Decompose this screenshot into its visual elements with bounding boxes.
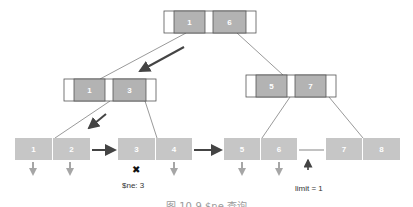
leaf-key-4: 4 [172, 145, 177, 154]
leaf-key-6: 6 [277, 145, 282, 154]
internal-left-key-1: 3 [127, 86, 132, 95]
internal-node-right: 5 7 [246, 75, 336, 97]
limit-label: limit = 1 [295, 184, 323, 193]
root-key-0: 1 [187, 18, 192, 27]
leaf-key-8: 8 [379, 145, 384, 154]
root-node: 1 6 [164, 11, 256, 33]
internal-node-left: 1 3 [64, 79, 156, 101]
b-plus-tree-diagram: 1 6 1 3 5 7 1 2 3 4 5 6 7 8 [0, 0, 413, 207]
leaf-key-1: 1 [31, 145, 36, 154]
internal-right-key-0: 5 [269, 82, 274, 91]
root-key-1: 6 [227, 18, 232, 27]
leaf-key-5: 5 [240, 145, 245, 154]
figure-caption: 图 10-9 $ne 查询 [0, 198, 413, 207]
record-pointer-arrows [33, 162, 279, 172]
internal-right-key-1: 7 [308, 82, 313, 91]
ne-label: $ne: 3 [122, 181, 144, 190]
leaf-key-2: 2 [69, 145, 74, 154]
leaf-key-7: 7 [342, 145, 347, 154]
excluded-marker-icon: ✖ [132, 164, 140, 175]
internal-left-key-0: 1 [87, 86, 92, 95]
leaf-key-3: 3 [134, 145, 139, 154]
